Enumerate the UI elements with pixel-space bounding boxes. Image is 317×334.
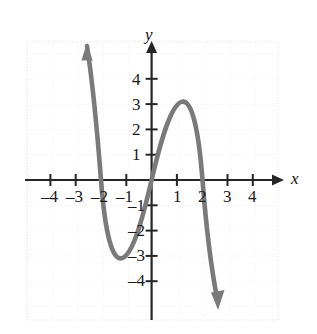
graph-figure: –4 –3 –2 –1 1 2 3 4 4 3 2 1 –1 –2 –3 –4 … [0,0,317,334]
ytick-label-3: 3 [132,96,141,113]
y-axis-label: y [145,26,153,43]
xtick-label--4: –4 [41,188,58,205]
xtick-label-3: 3 [223,188,232,205]
ytick-label--1: –1 [128,197,145,214]
xtick-label-1: 1 [173,188,182,205]
x-axis-label: x [291,170,299,187]
ytick-label-4: 4 [132,71,141,88]
xtick-label--2: –2 [91,188,108,205]
coordinate-plane [0,0,317,334]
ytick-label--4: –4 [128,272,145,289]
ytick-label-2: 2 [132,121,141,138]
xtick-label-4: 4 [248,188,257,205]
ytick-label--3: –3 [128,247,145,264]
xtick-label-2: 2 [198,188,207,205]
ytick-label-1: 1 [132,146,141,163]
ytick-label--2: –2 [128,222,145,239]
xtick-label--3: –3 [66,188,83,205]
